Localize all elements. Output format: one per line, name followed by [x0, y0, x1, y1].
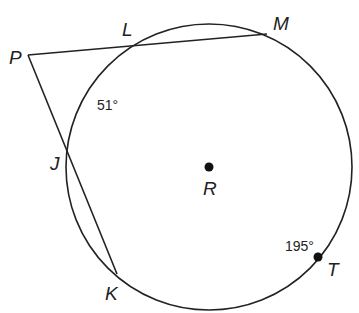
- label-P: P: [9, 47, 22, 68]
- arc-measure-LJ: 51°: [97, 97, 118, 113]
- center-point-R: [205, 163, 214, 172]
- secant-PK: [28, 55, 117, 274]
- label-T: T: [327, 259, 340, 280]
- arc-measure-MTK: 195°: [285, 238, 314, 254]
- label-M: M: [273, 13, 289, 34]
- geometry-diagram: P L M J K T R 51° 195°: [0, 0, 359, 313]
- label-J: J: [49, 153, 60, 174]
- label-K: K: [105, 283, 119, 304]
- label-R: R: [203, 178, 217, 199]
- point-T: [314, 253, 323, 262]
- label-L: L: [122, 19, 133, 40]
